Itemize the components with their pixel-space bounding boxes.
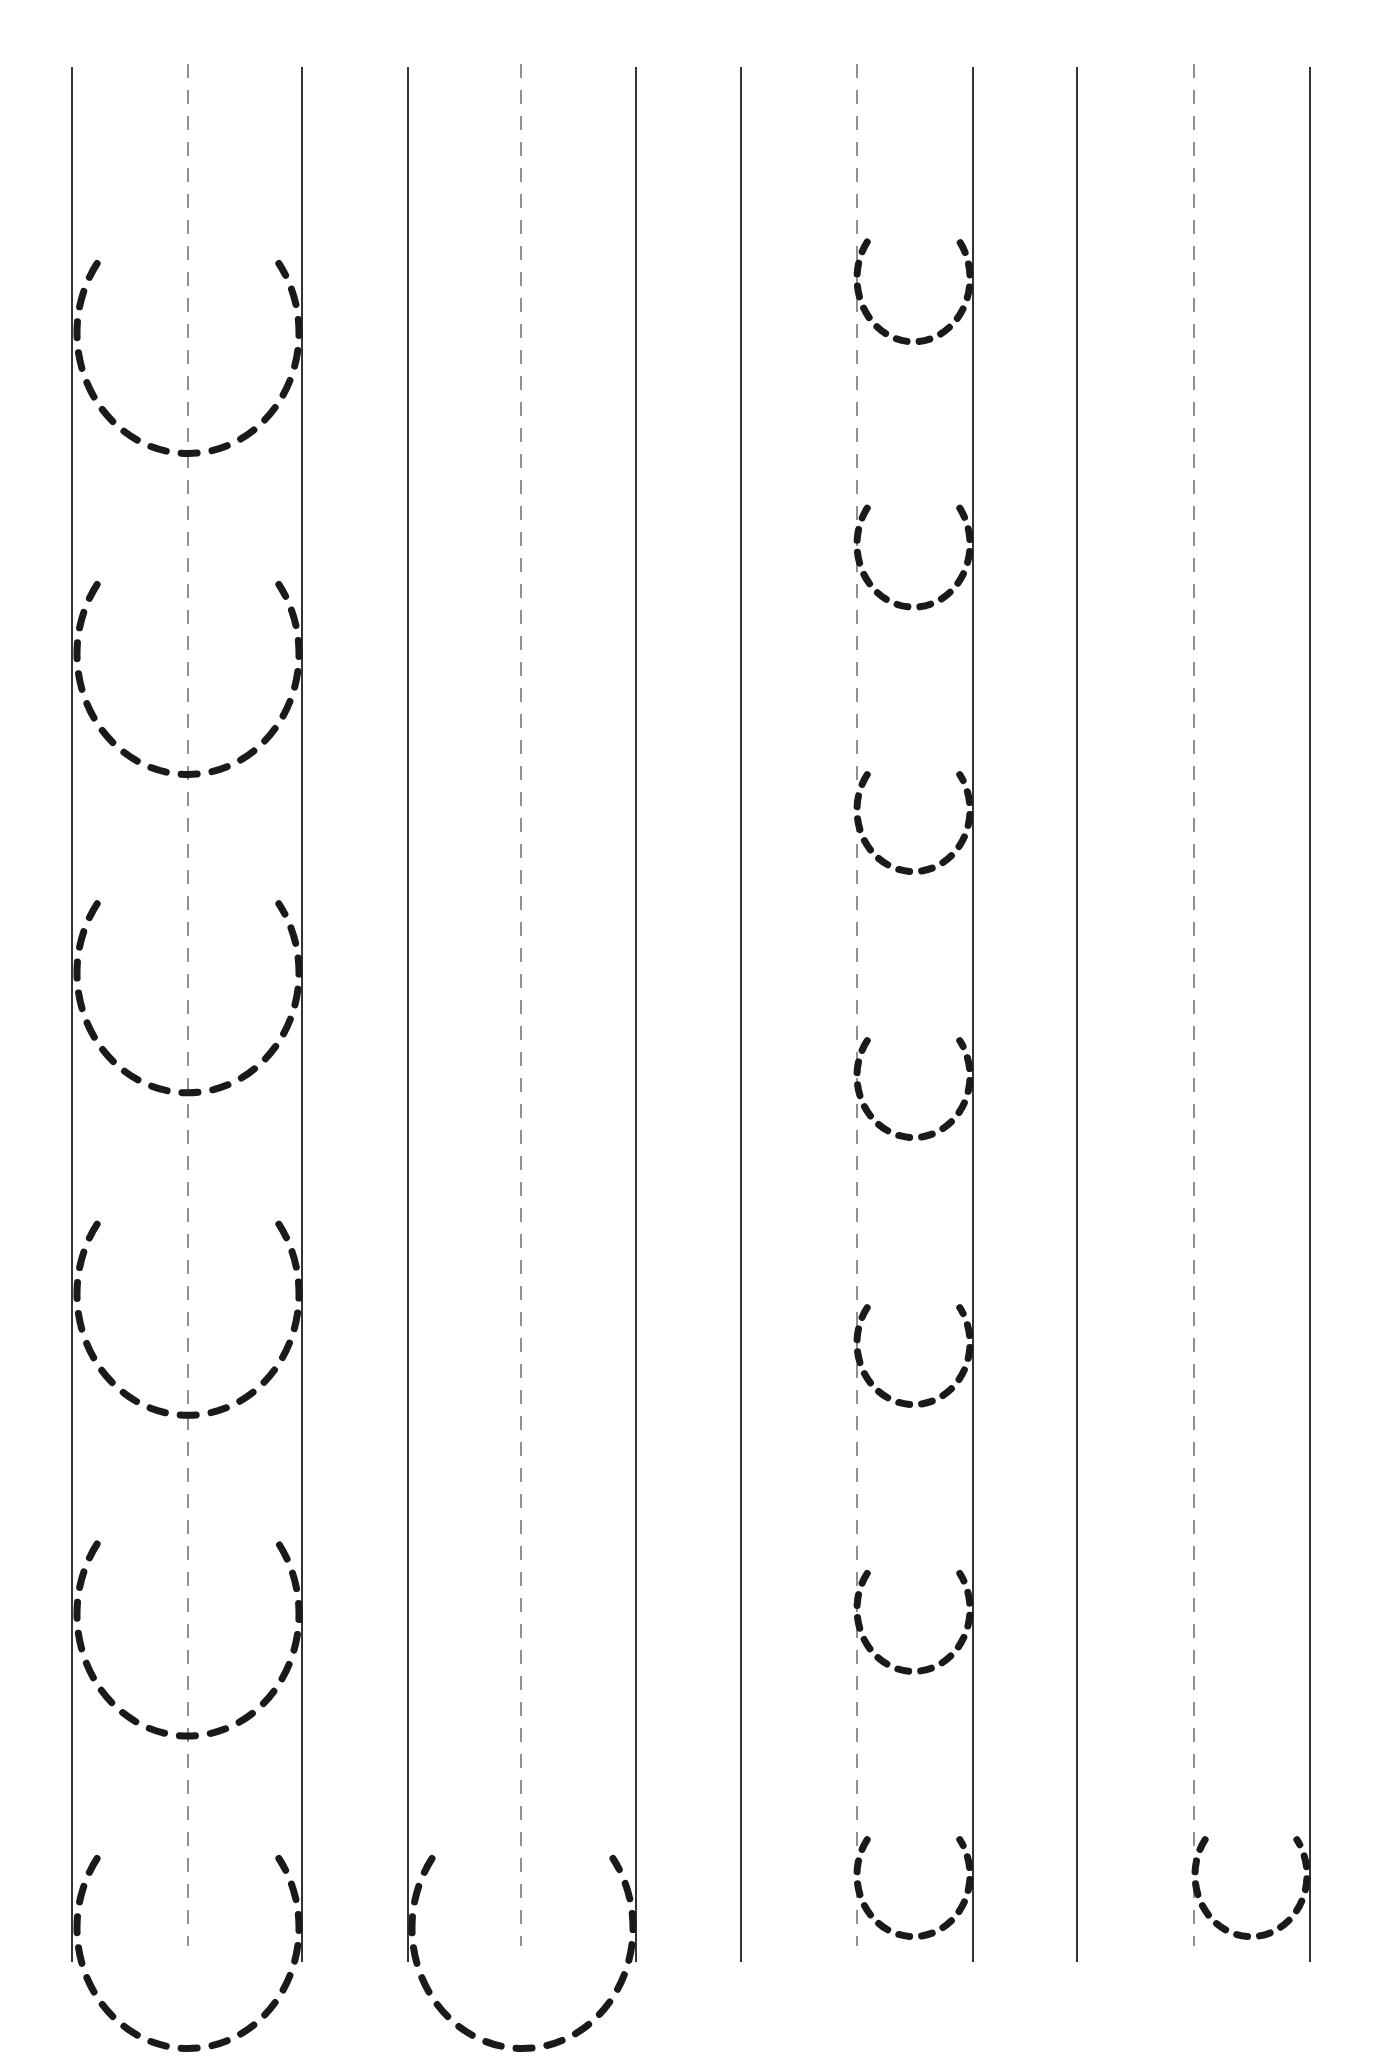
tracing-letters bbox=[77, 242, 1307, 2049]
dotted-letter-u-trace bbox=[857, 1840, 970, 1937]
dotted-letter-u-trace bbox=[857, 1308, 970, 1405]
dotted-letter-u-trace bbox=[857, 242, 970, 342]
guide-lines bbox=[72, 64, 1310, 1962]
writing-column-4 bbox=[1077, 64, 1310, 1962]
dotted-letter-u-trace bbox=[857, 775, 970, 872]
dotted-letter-u-trace bbox=[857, 1041, 970, 1138]
dotted-letter-u-trace bbox=[857, 508, 970, 607]
dotted-letter-u-trace bbox=[412, 1859, 633, 2049]
writing-column-2 bbox=[408, 64, 636, 1962]
writing-column-3 bbox=[741, 64, 973, 1962]
writing-column-1 bbox=[72, 64, 302, 1962]
dotted-letter-u-trace bbox=[857, 1573, 970, 1671]
tracing-worksheet bbox=[0, 0, 1382, 2062]
dotted-letter-u-trace bbox=[1195, 1840, 1307, 1937]
